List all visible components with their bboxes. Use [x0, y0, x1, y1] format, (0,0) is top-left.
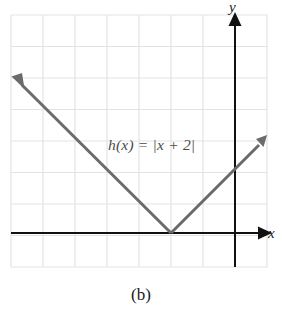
x-axis	[11, 227, 272, 240]
x-axis-label: x	[267, 225, 275, 241]
figure-caption: (b)	[0, 282, 282, 308]
figure-container: x y h(x) = |x + 2| (b)	[0, 0, 282, 311]
equation-annotation: h(x) = |x + 2|	[108, 136, 195, 154]
graph-canvas: x y h(x) = |x + 2|	[0, 0, 282, 282]
y-axis-label: y	[227, 0, 236, 15]
y-axis	[229, 12, 242, 267]
